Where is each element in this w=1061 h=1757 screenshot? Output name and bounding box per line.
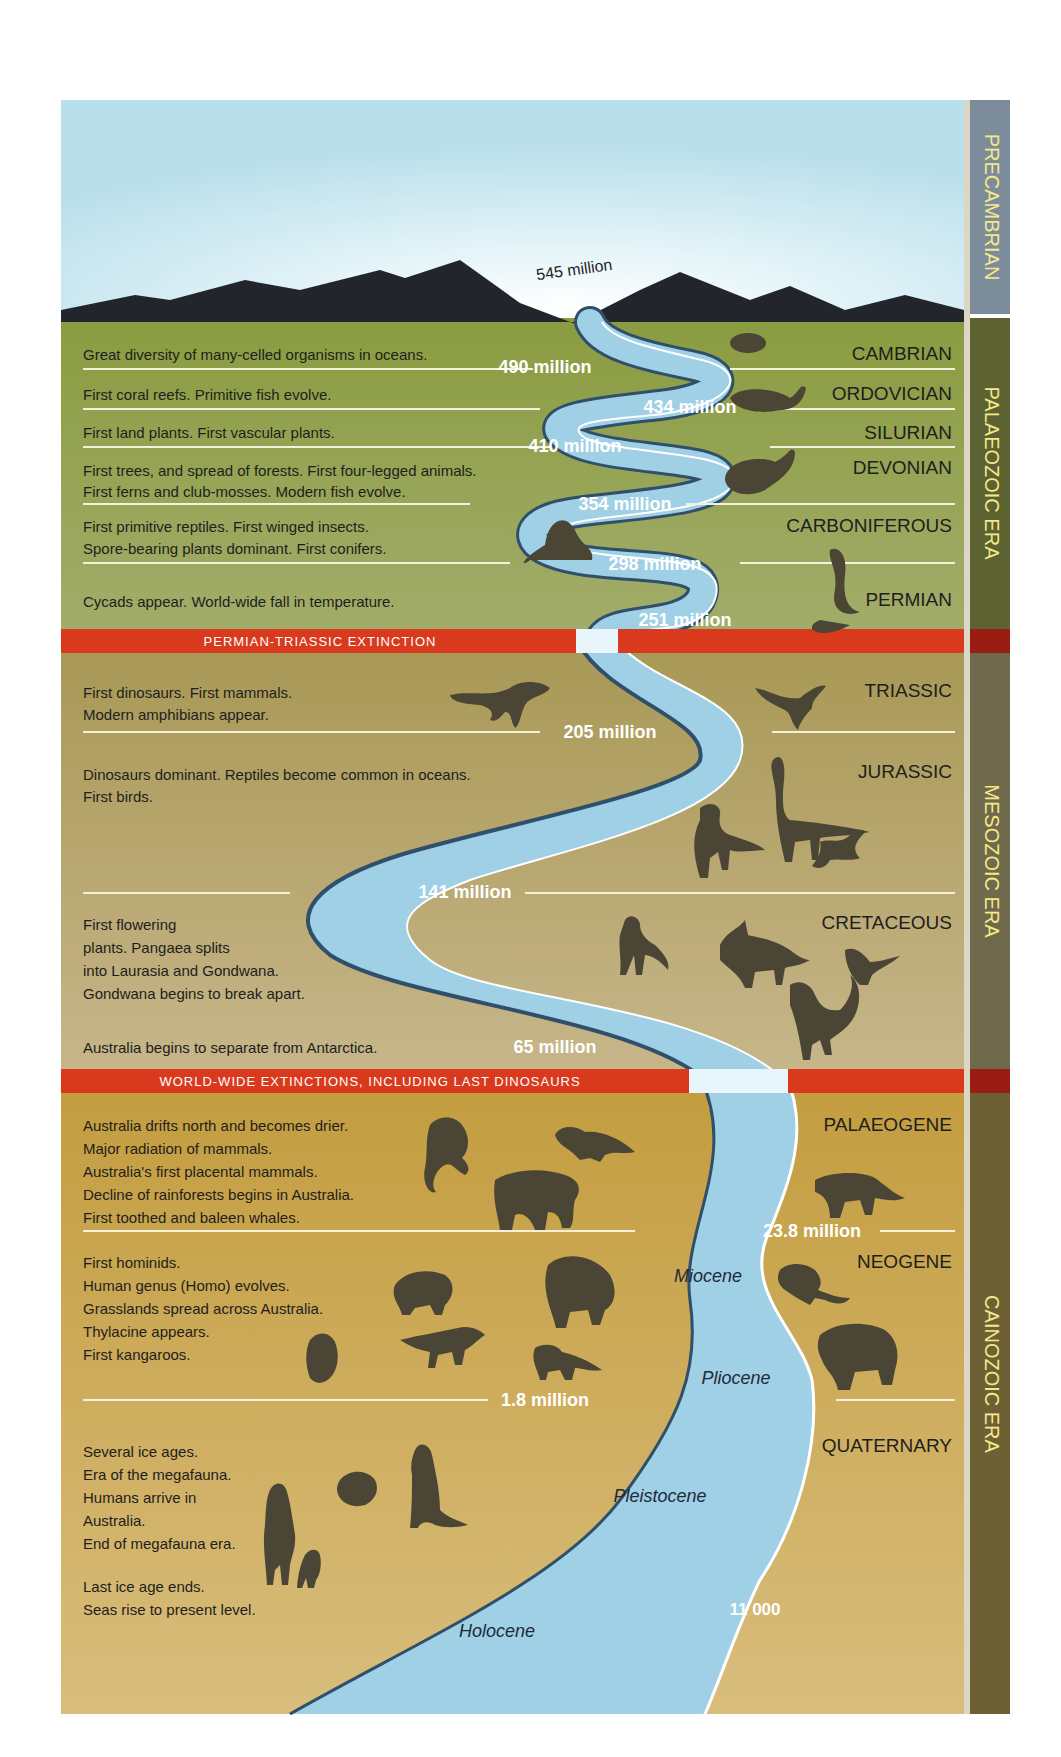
period-name-jurassic: JURASSIC bbox=[858, 761, 952, 782]
event-text: First birds. bbox=[83, 788, 153, 805]
date-jurassic-end: 141 million bbox=[418, 882, 511, 902]
period-name-neogene: NEOGENE bbox=[857, 1251, 952, 1272]
event-text: Era of the megafauna. bbox=[83, 1466, 231, 1483]
event-text: First land plants. First vascular plants… bbox=[83, 424, 335, 441]
event-text: Decline of rainforests begins in Austral… bbox=[83, 1186, 354, 1203]
era-label-precambrian: PRECAMBRIAN bbox=[981, 134, 1003, 281]
event-text: End of megafauna era. bbox=[83, 1535, 236, 1552]
sky-background bbox=[61, 100, 964, 320]
date-neogene-end: 1.8 million bbox=[501, 1390, 589, 1410]
extinction-label: WORLD-WIDE EXTINCTIONS, INCLUDING LAST D… bbox=[159, 1074, 580, 1089]
event-text: First dinosaurs. First mammals. bbox=[83, 684, 292, 701]
date-cretaceous-end: 65 million bbox=[513, 1037, 596, 1057]
event-text: First flowering bbox=[83, 916, 176, 933]
era-label-mesozoic: MESOZOIC ERA bbox=[981, 784, 1003, 938]
event-text: Modern amphibians appear. bbox=[83, 706, 269, 723]
date-palaeogene-end: 23.8 million bbox=[763, 1221, 861, 1241]
event-text: Last ice age ends. bbox=[83, 1578, 205, 1595]
date-permian-end: 251 million bbox=[638, 610, 731, 630]
event-text: First toothed and baleen whales. bbox=[83, 1209, 300, 1226]
epoch-pliocene: Pliocene bbox=[701, 1368, 770, 1388]
diprotodon-icon bbox=[494, 1170, 579, 1230]
period-name-silurian: SILURIAN bbox=[864, 422, 952, 443]
event-text: Cycads appear. World-wide fall in temper… bbox=[83, 593, 395, 610]
date-cambrian-end: 490 million bbox=[498, 357, 591, 377]
event-text: Major radiation of mammals. bbox=[83, 1140, 272, 1157]
epoch-miocene: Miocene bbox=[674, 1266, 742, 1286]
date-devonian-end: 354 million bbox=[578, 494, 671, 514]
era-label-palaeozoic: PALAEOZOIC ERA bbox=[981, 386, 1003, 560]
event-text: Human genus (Homo) evolves. bbox=[83, 1277, 290, 1294]
event-text: Australia's first placental mammals. bbox=[83, 1163, 318, 1180]
date-carboniferous-end: 298 million bbox=[608, 554, 701, 574]
trilobite-icon bbox=[730, 333, 766, 353]
event-text: Australia begins to separate from Antarc… bbox=[83, 1039, 377, 1056]
era-label-cainozoic: CAINOZOIC ERA bbox=[981, 1295, 1003, 1453]
date-holocene-start: 11 000 bbox=[729, 1600, 780, 1619]
event-text: Seas rise to present level. bbox=[83, 1601, 256, 1618]
event-text: Grasslands spread across Australia. bbox=[83, 1300, 323, 1317]
era-bar-extinction-1 bbox=[970, 629, 1010, 653]
event-text: Australia. bbox=[83, 1512, 146, 1529]
era-sidebar: PRECAMBRIAN PALAEOZOIC ERA MESOZOIC ERA … bbox=[964, 100, 1010, 1714]
event-text: Gondwana begins to break apart. bbox=[83, 985, 305, 1002]
period-name-triassic: TRIASSIC bbox=[864, 680, 952, 701]
event-text: First trees, and spread of forests. Firs… bbox=[83, 462, 477, 479]
event-text: Dinosaurs dominant. Reptiles become comm… bbox=[83, 766, 471, 783]
event-text: plants. Pangaea splits bbox=[83, 939, 230, 956]
period-name-cambrian: CAMBRIAN bbox=[852, 343, 952, 364]
period-name-quaternary: QUATERNARY bbox=[822, 1435, 953, 1456]
event-text: Great diversity of many-celled organisms… bbox=[83, 346, 427, 363]
extinction-label: PERMIAN-TRIASSIC EXTINCTION bbox=[204, 634, 437, 649]
geological-timescale-diagram: PERMIAN-TRIASSIC EXTINCTION WORLD-WIDE E… bbox=[0, 0, 1061, 1757]
period-name-palaeogene: PALAEOGENE bbox=[824, 1114, 952, 1135]
period-name-devonian: DEVONIAN bbox=[853, 457, 952, 478]
event-text: First hominids. bbox=[83, 1254, 181, 1271]
period-name-ordovician: ORDOVICIAN bbox=[832, 383, 952, 404]
event-text: Humans arrive in bbox=[83, 1489, 196, 1506]
event-text: Spore-bearing plants dominant. First con… bbox=[83, 540, 386, 557]
period-name-cretaceous: CRETACEOUS bbox=[821, 912, 952, 933]
date-triassic-end: 205 million bbox=[563, 722, 656, 742]
epoch-holocene: Holocene bbox=[459, 1621, 535, 1641]
period-name-carboniferous: CARBONIFEROUS bbox=[786, 515, 952, 536]
era-bar-extinction-2 bbox=[970, 1069, 1010, 1093]
date-ordovician-end: 434 million bbox=[643, 397, 736, 417]
period-name-permian: PERMIAN bbox=[865, 589, 952, 610]
event-text: First ferns and club-mosses. Modern fish… bbox=[83, 483, 406, 500]
event-text: Australia drifts north and becomes drier… bbox=[83, 1117, 348, 1134]
event-text: Thylacine appears. bbox=[83, 1323, 210, 1340]
event-text: into Laurasia and Gondwana. bbox=[83, 962, 279, 979]
extinction-band-kt: WORLD-WIDE EXTINCTIONS, INCLUDING LAST D… bbox=[61, 1069, 964, 1093]
event-text: First coral reefs. Primitive fish evolve… bbox=[83, 386, 331, 403]
date-silurian-end: 410 million bbox=[528, 436, 621, 456]
epoch-pleistocene: Pleistocene bbox=[613, 1486, 706, 1506]
event-text: First kangaroos. bbox=[83, 1346, 191, 1363]
event-text: Several ice ages. bbox=[83, 1443, 198, 1460]
event-text: First primitive reptiles. First winged i… bbox=[83, 518, 369, 535]
